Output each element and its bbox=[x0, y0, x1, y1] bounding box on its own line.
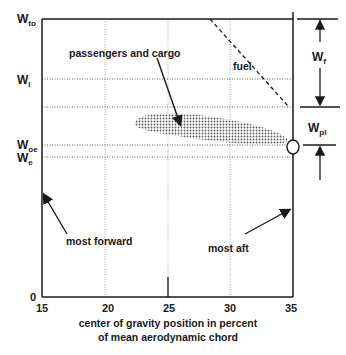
most-forward-label: most forward bbox=[66, 235, 133, 247]
x-tick-20: 20 bbox=[102, 302, 114, 314]
x-tick-35: 35 bbox=[285, 302, 297, 314]
y-label-wl: Wl bbox=[17, 73, 31, 89]
weight-brackets bbox=[297, 19, 340, 180]
passengers-cargo-label: passengers and cargo bbox=[69, 47, 180, 59]
x-axis-title-line1: center of gravity position in percent bbox=[79, 317, 258, 329]
operating-empty-point bbox=[287, 140, 299, 154]
x-tick-15: 15 bbox=[36, 302, 48, 314]
cg-envelope-diagram: Wto Wl Woe We 0 15 20 25 30 35 center of… bbox=[0, 0, 346, 355]
most-aft-arrow bbox=[245, 210, 289, 234]
wpl-label: Wpl bbox=[308, 121, 326, 137]
y-label-wto: Wto bbox=[17, 12, 36, 28]
most-forward-arrow bbox=[44, 195, 67, 234]
x-axis-title-line2: of mean aerodynamic chord bbox=[98, 331, 238, 343]
most-aft-label: most aft bbox=[208, 242, 249, 254]
x-tick-25: 25 bbox=[163, 302, 175, 314]
fuel-label: fuel bbox=[233, 60, 252, 72]
wf-label: Wf bbox=[312, 50, 326, 66]
passengers-cargo-region bbox=[134, 113, 287, 144]
x-tick-30: 30 bbox=[224, 302, 236, 314]
vertical-gridlines bbox=[105, 19, 230, 297]
